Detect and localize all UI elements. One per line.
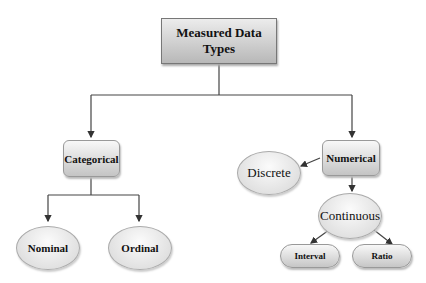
continuous-node: Continuous: [318, 193, 382, 239]
nominal-label: Nominal: [28, 242, 68, 254]
discrete-node: Discrete: [237, 151, 301, 195]
continuous-label: Continuous: [320, 208, 380, 224]
interval-label: Interval: [295, 251, 326, 261]
ordinal-node: Ordinal: [108, 226, 172, 270]
ordinal-label: Ordinal: [121, 242, 158, 254]
numerical-label: Numerical: [326, 152, 375, 164]
discrete-label: Discrete: [247, 165, 290, 181]
root-node: Measured Data Types: [161, 18, 277, 64]
categorical-label: Categorical: [64, 153, 118, 165]
ratio-node: Ratio: [352, 244, 412, 268]
root-label: Measured Data Types: [162, 25, 276, 57]
interval-node: Interval: [280, 244, 340, 268]
numerical-node: Numerical: [322, 140, 380, 176]
ratio-label: Ratio: [372, 251, 393, 261]
categorical-node: Categorical: [63, 140, 120, 177]
nominal-node: Nominal: [16, 226, 80, 270]
